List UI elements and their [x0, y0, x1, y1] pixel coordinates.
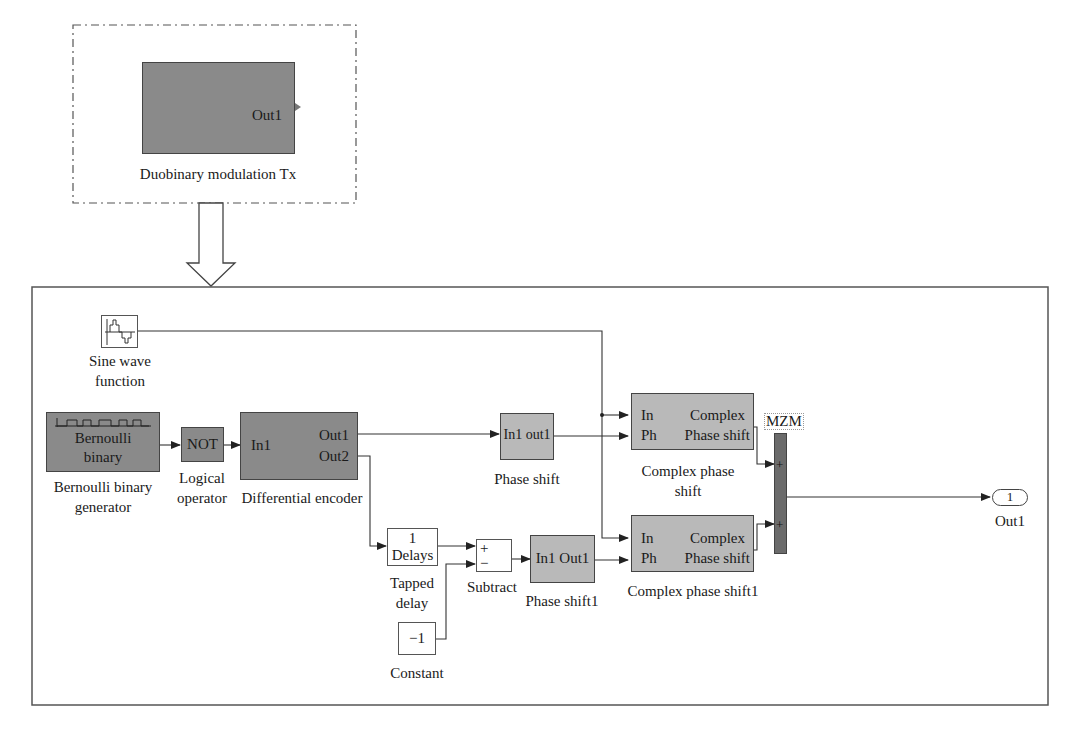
diff-in1-label: In1: [251, 437, 271, 454]
tapped-delay-block[interactable]: 1 Delays: [387, 528, 438, 566]
complex-in-label: In: [641, 407, 654, 424]
complex-right1: Complex: [690, 407, 745, 424]
phase-shift1-block[interactable]: In1 Out1: [530, 535, 595, 583]
mzm-label: MZM: [764, 413, 804, 430]
complex1-right1: Complex: [690, 530, 745, 547]
bernoulli-caption-2: generator: [38, 498, 168, 516]
sine-wave-block[interactable]: [101, 315, 138, 348]
phase-shift1-inner: In1 Out1: [531, 550, 594, 567]
complex-phase-shift-block[interactable]: In Ph Complex Phase shift: [631, 393, 754, 450]
sine-caption-2: function: [70, 372, 170, 390]
outport-caption: Out1: [980, 512, 1040, 530]
expand-arrow-icon: [187, 203, 235, 286]
diff-out2-label: Out2: [319, 448, 349, 465]
complex-caption-2: shift: [628, 482, 748, 500]
mzm-sum-block[interactable]: + +: [774, 433, 787, 554]
outport-1[interactable]: 1: [992, 489, 1028, 506]
bernoulli-binary-block[interactable]: Bernoulli binary: [46, 412, 160, 472]
complex-right2: Phase shift: [685, 427, 750, 444]
phase-shift-caption: Phase shift: [477, 470, 577, 488]
mzm-plus-bottom: +: [776, 516, 783, 533]
sine-wave-icon: [102, 316, 137, 347]
bernoulli-caption-1: Bernoulli binary: [38, 478, 168, 496]
mzm-plus-top: +: [776, 456, 783, 473]
constant-caption: Constant: [377, 664, 457, 682]
complex1-caption: Complex phase shift1: [608, 582, 778, 600]
duobinary-subsystem-block[interactable]: Out1: [142, 62, 295, 154]
diff-caption: Differential encoder: [232, 489, 372, 507]
complex1-in-label: In: [641, 530, 654, 547]
differential-encoder-block[interactable]: In1 Out1 Out2: [240, 412, 358, 480]
delay-caption-2: delay: [372, 594, 452, 612]
complex1-ph-label: Ph: [641, 550, 657, 567]
subtract-minus: −: [480, 555, 488, 572]
complex-ph-label: Ph: [641, 427, 657, 444]
not-inner: NOT: [182, 436, 223, 453]
outport-number: 1: [1007, 489, 1014, 504]
bernoulli-inner-1: Bernoulli: [47, 430, 159, 447]
pulse-train-icon: [53, 416, 153, 428]
subtract-block[interactable]: + −: [476, 539, 512, 572]
diff-out1-label: Out1: [319, 427, 349, 444]
delay-line2: Delays: [388, 547, 437, 564]
bernoulli-inner-2: binary: [47, 449, 159, 466]
complex-phase-shift1-block[interactable]: In Ph Complex Phase shift: [631, 515, 754, 572]
constant-block[interactable]: −1: [398, 622, 436, 655]
complex1-right2: Phase shift: [685, 550, 750, 567]
delay-line1: 1: [388, 530, 437, 547]
constant-value: −1: [399, 630, 435, 647]
not-caption-1: Logical: [162, 469, 242, 487]
logical-not-block[interactable]: NOT: [181, 427, 224, 462]
not-caption-2: operator: [162, 489, 242, 507]
phase-shift-inner: In1 out1: [501, 426, 553, 443]
subsystem-caption: Duobinary modulation Tx: [118, 165, 318, 183]
sine-caption-1: Sine wave: [70, 352, 170, 370]
phase-shift1-caption: Phase shift1: [512, 592, 612, 610]
subsystem-out-port-icon: [295, 103, 301, 111]
phase-shift-block[interactable]: In1 out1: [500, 413, 554, 460]
complex-caption-1: Complex phase: [628, 462, 748, 480]
delay-caption-1: Tapped: [372, 574, 452, 592]
subsystem-out1-label: Out1: [252, 107, 282, 124]
